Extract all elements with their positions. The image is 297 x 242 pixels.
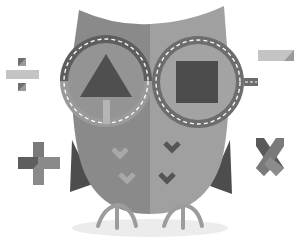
minus-icon [258,50,294,61]
plus-icon [18,142,60,185]
square-shape [176,61,218,103]
ground-shadow [72,219,228,237]
divide-icon [6,58,39,91]
right-lens [152,36,258,128]
left-lens [60,35,152,127]
owl-illustration: Math owl illustration [0,0,297,242]
tree-trunk [103,100,110,124]
times-icon [256,138,284,176]
